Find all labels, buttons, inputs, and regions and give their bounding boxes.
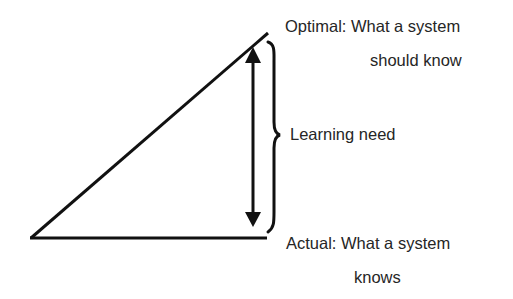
optimal-label-line2: should know: [370, 50, 462, 70]
triangle-graphic: [0, 0, 513, 299]
hypotenuse-line: [31, 33, 268, 238]
optimal-label-line1: Optimal: What a system: [285, 16, 460, 36]
curly-brace-icon: [268, 42, 280, 232]
learning-need-diagram: Optimal: What a system should know Learn…: [0, 0, 513, 299]
actual-label-line2: knows: [354, 267, 401, 287]
learning-need-label: Learning need: [290, 124, 396, 144]
actual-label-line1: Actual: What a system: [286, 233, 450, 253]
double-arrow-icon: [245, 47, 261, 227]
